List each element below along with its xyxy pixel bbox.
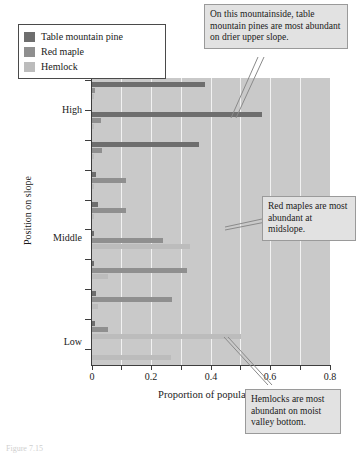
legend-label-pine: Table mountain pine — [41, 32, 123, 42]
figure-container: Table mountain pine Red maple Hemlock Hi… — [0, 0, 356, 456]
legend-label-red-maple: Red maple — [41, 47, 84, 57]
legend-label-hemlock: Hemlock — [41, 62, 78, 72]
annotation-hemlock-callout: Hemlocks are most abundant on moist vall… — [245, 389, 341, 434]
annotation-maple-callout: Red maples are most abundant at midslope… — [262, 196, 356, 241]
legend-swatch-red-maple — [24, 47, 35, 57]
legend-item-hemlock: Hemlock — [24, 59, 160, 74]
legend-item-red-maple: Red maple — [24, 44, 160, 59]
legend-swatch-pine — [24, 32, 35, 42]
legend-swatch-hemlock — [24, 62, 35, 72]
legend-item-pine: Table mountain pine — [24, 29, 160, 44]
chart-legend: Table mountain pine Red maple Hemlock — [18, 24, 166, 79]
annotation-pine-callout: On this mountainside, table mountain pin… — [204, 4, 348, 49]
